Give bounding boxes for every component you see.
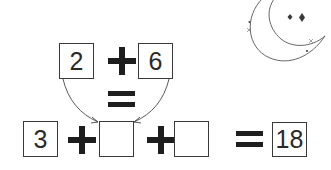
arrow-left-curve	[63, 79, 98, 122]
result-number: 18	[276, 127, 304, 152]
top-left-number: 2	[70, 49, 84, 74]
star-icons	[249, 13, 309, 52]
blank-answer-box-2[interactable]	[174, 121, 209, 157]
blank-answer-box-1[interactable]	[99, 121, 134, 157]
equals-bar-bottom	[236, 142, 263, 147]
equals-bar-top	[108, 91, 135, 96]
equals-sign-middle	[108, 89, 135, 109]
crescent-moon-icon	[250, 0, 325, 61]
plus-sign-top	[108, 47, 136, 75]
top-left-number-box: 2	[59, 43, 94, 79]
equals-bar-bottom	[108, 102, 135, 107]
plus-sign-bottom-1	[68, 126, 96, 154]
arrow-right-curve	[134, 79, 169, 122]
plus-sign-bottom-2	[147, 126, 175, 154]
top-right-number-box: 6	[138, 43, 173, 79]
sparkle-icons	[247, 28, 313, 43]
result-number-box: 18	[272, 122, 307, 157]
bottom-first-number-box: 3	[23, 121, 58, 157]
top-right-number: 6	[149, 49, 163, 74]
equals-bar-top	[236, 131, 263, 136]
equals-sign-bottom	[236, 129, 263, 149]
bottom-first-number: 3	[34, 127, 48, 152]
